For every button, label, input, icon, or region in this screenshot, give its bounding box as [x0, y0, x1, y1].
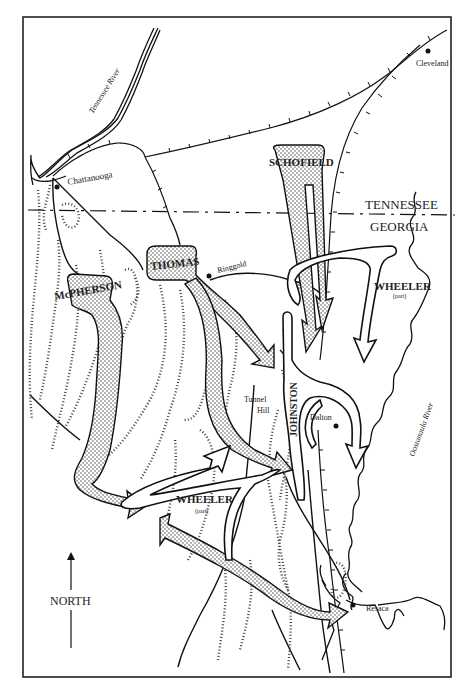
tennessee-river-label: Tennessee River	[87, 66, 122, 115]
dalton-marker	[334, 424, 339, 429]
campaign-map: Tennessee River Oostanaula River	[0, 0, 473, 699]
dalton-label: Dalton	[310, 413, 332, 422]
wheeler-east-note: (part)	[393, 293, 406, 300]
resaca-marker	[351, 603, 356, 608]
johnston-label: JOHNSTON	[288, 381, 299, 437]
ringgold-label: Ringgold	[216, 259, 247, 275]
wheeler-west-note: (part)	[195, 508, 208, 515]
wheeler-east-label: WHEELER	[374, 280, 432, 292]
chattanooga-label: Chattanooga	[67, 169, 114, 187]
map-frame	[23, 17, 451, 677]
tunnel-hill-label-line2: Hill	[257, 406, 270, 415]
tunnel-hill-label-line1: Tunnel	[244, 395, 267, 404]
ringgold-marker	[207, 274, 212, 279]
state-label-tennessee: TENNESSEE	[365, 197, 438, 212]
state-label-georgia: GEORGIA	[370, 219, 429, 234]
cleveland-label: Cleveland	[416, 59, 448, 68]
oostanaula-river-label: Oostanaula River	[407, 401, 435, 458]
chattanooga-marker	[55, 185, 60, 190]
schofield-label: SCHOFIELD	[269, 156, 334, 168]
wheeler-west-label: WHEELER	[176, 493, 234, 505]
resaca-label: Resaca	[366, 604, 389, 613]
north-label: NORTH	[50, 594, 91, 608]
cleveland-marker	[426, 49, 431, 54]
